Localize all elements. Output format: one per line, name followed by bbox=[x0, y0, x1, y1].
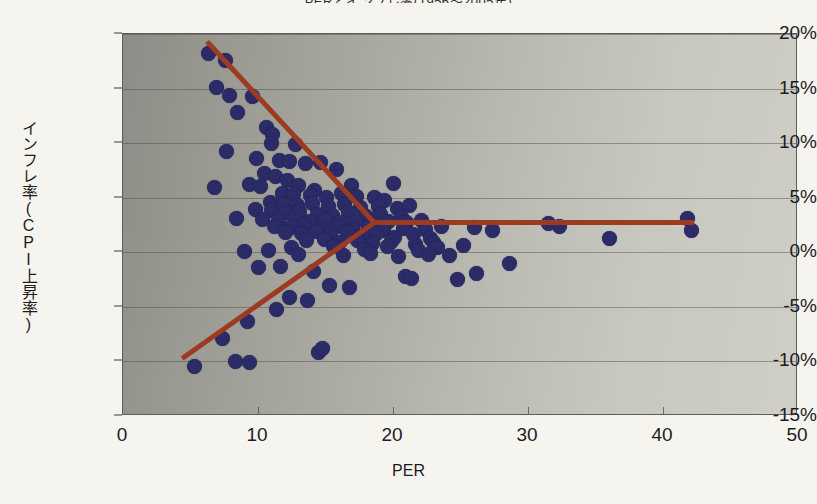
y-axis-tick-mark bbox=[114, 360, 122, 361]
y-axis-tick-label: -5% bbox=[705, 295, 817, 317]
scatter-point bbox=[298, 156, 313, 171]
x-axis-tick-label: 20 bbox=[362, 424, 422, 446]
scatter-point bbox=[442, 248, 457, 263]
trendline-flat-line bbox=[374, 220, 694, 225]
scatter-point bbox=[230, 105, 245, 120]
y-axis-tick-mark bbox=[114, 415, 122, 416]
x-axis-title: PER bbox=[0, 462, 817, 480]
gridline-horizontal bbox=[123, 252, 796, 253]
x-axis-tick-label: 10 bbox=[227, 424, 287, 446]
x-axis-tick-label: 40 bbox=[632, 424, 692, 446]
scatter-point bbox=[391, 249, 406, 264]
scatter-point bbox=[219, 144, 234, 159]
y-axis-tick-label: 15% bbox=[705, 77, 817, 99]
scatter-point bbox=[342, 280, 357, 295]
x-axis-tick-label: 0 bbox=[92, 424, 152, 446]
scatter-point bbox=[261, 243, 276, 258]
scatter-point bbox=[404, 271, 419, 286]
scatter-point bbox=[242, 355, 257, 370]
gridline-horizontal bbox=[123, 307, 796, 308]
x-axis-tick-mark bbox=[663, 407, 664, 414]
scatter-point bbox=[502, 256, 517, 271]
scatter-point bbox=[237, 244, 252, 259]
x-axis-tick-mark bbox=[393, 407, 394, 414]
plot-area bbox=[122, 33, 797, 415]
scatter-point bbox=[386, 176, 401, 191]
scatter-point bbox=[228, 354, 243, 369]
scatter-point bbox=[282, 290, 297, 305]
scatter-point bbox=[299, 233, 314, 248]
scatter-point bbox=[251, 260, 266, 275]
scatter-point bbox=[322, 278, 337, 293]
x-axis-tick-label: 50 bbox=[767, 424, 817, 446]
scatter-point bbox=[363, 246, 378, 261]
scatter-point bbox=[421, 247, 436, 262]
scatter-point bbox=[291, 247, 306, 262]
y-axis-tick-mark bbox=[114, 33, 122, 34]
scatter-point bbox=[469, 266, 484, 281]
y-axis-tick-label: -15% bbox=[705, 404, 817, 426]
chart-page: PERとインフレ率(1956～2005年) インフレ率(CPI上昇率) 20%1… bbox=[0, 0, 817, 504]
scatter-point bbox=[207, 180, 222, 195]
scatter-point bbox=[269, 302, 284, 317]
scatter-point bbox=[315, 341, 330, 356]
scatter-point bbox=[278, 225, 293, 240]
y-axis-tick-label: 10% bbox=[705, 131, 817, 153]
y-axis-tick-mark bbox=[114, 142, 122, 143]
y-axis-tick-mark bbox=[114, 87, 122, 88]
y-axis-tick-label: 20% bbox=[705, 22, 817, 44]
y-axis-tick-label: -10% bbox=[705, 349, 817, 371]
y-axis-tick-mark bbox=[114, 251, 122, 252]
gridline-horizontal bbox=[123, 198, 796, 199]
y-axis-tick-label: 0% bbox=[705, 240, 817, 262]
x-axis-tick-mark bbox=[258, 407, 259, 414]
scatter-point bbox=[273, 259, 288, 274]
y-axis-tick-label: 5% bbox=[705, 186, 817, 208]
scatter-point bbox=[456, 238, 471, 253]
scatter-point bbox=[249, 151, 264, 166]
scatter-point bbox=[282, 154, 297, 169]
scatter-point bbox=[602, 231, 617, 246]
y-axis-tick-mark bbox=[114, 305, 122, 306]
x-axis-tick-label: 30 bbox=[497, 424, 557, 446]
y-axis-title: インフレ率(CPI上昇率) bbox=[12, 120, 38, 380]
chart-title: PERとインフレ率(1956～2005年) bbox=[0, 0, 817, 3]
gridline-horizontal bbox=[123, 361, 796, 362]
scatter-point bbox=[253, 179, 268, 194]
gridline-horizontal bbox=[123, 34, 796, 35]
scatter-point bbox=[187, 359, 202, 374]
scatter-point bbox=[264, 136, 279, 151]
scatter-point bbox=[222, 88, 237, 103]
x-axis-tick-mark bbox=[528, 407, 529, 414]
scatter-point bbox=[300, 293, 315, 308]
scatter-point bbox=[450, 272, 465, 287]
scatter-point bbox=[229, 211, 244, 226]
y-axis-tick-mark bbox=[114, 196, 122, 197]
